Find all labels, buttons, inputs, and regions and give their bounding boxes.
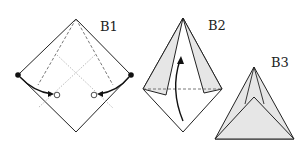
b1-dot-left [15,72,21,78]
b1-target-circle-left [54,92,60,98]
b3-label: B3 [271,55,289,70]
b2-label: B2 [208,18,226,33]
b1-dot-right [128,72,134,78]
b1-target-circle-right [91,92,97,98]
origami-diagram: B1 B2 B3 [0,0,307,151]
step-b2: B2 [143,18,226,132]
b1-label: B1 [100,19,118,34]
step-b3: B3 [215,55,294,139]
step-b1: B1 [15,19,134,132]
b1-square-outline [18,19,131,132]
